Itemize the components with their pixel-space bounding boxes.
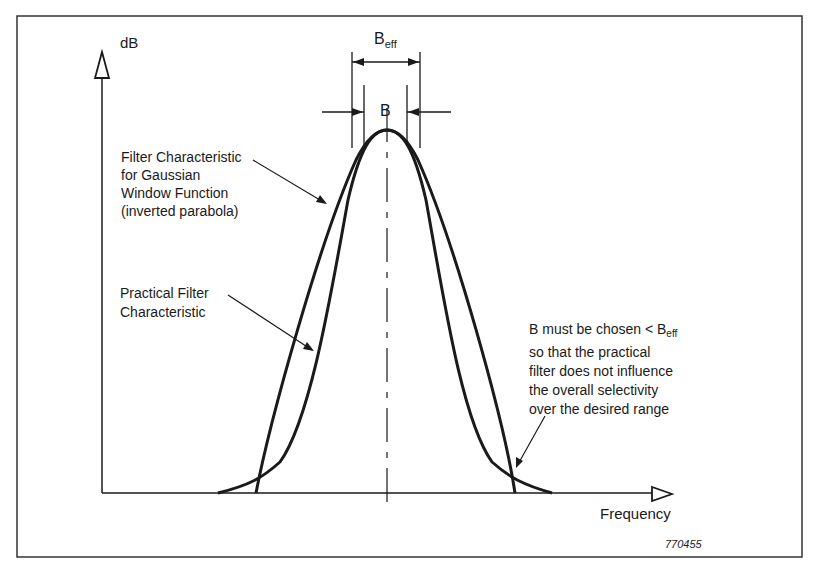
gaussian-leader-arrow-icon — [316, 195, 327, 204]
note-annotation-line: so that the practical — [529, 343, 677, 362]
gaussian-annotation-line: Window Function — [121, 184, 242, 202]
practical-annotation: Practical Filter Characteristic — [120, 284, 209, 322]
beff-label-sub: eff — [385, 38, 397, 50]
practical-annotation-line: Practical Filter — [120, 284, 209, 303]
b-left-arrow-icon — [352, 108, 363, 116]
note-line1-sub: eff — [666, 328, 677, 339]
beff-right-arrow-icon — [408, 58, 419, 66]
note-line1-main: B must be chosen < B — [529, 321, 666, 337]
gaussian-leader-line — [253, 160, 325, 203]
beff-label: Beff — [374, 30, 397, 53]
b-right-arrow-icon — [408, 108, 419, 116]
figure-id: 770455 — [665, 535, 702, 553]
gaussian-annotation-line: Filter Characteristic — [121, 148, 242, 166]
practical-annotation-line: Characteristic — [120, 303, 209, 322]
beff-left-arrow-icon — [353, 58, 364, 66]
note-annotation-line: the overall selectivity — [529, 381, 677, 400]
gaussian-annotation-line: for Gaussian — [121, 166, 242, 184]
note-annotation: B must be chosen < Beff so that the prac… — [529, 320, 677, 419]
y-axis-arrow-icon — [95, 52, 109, 78]
note-annotation-line: filter does not influence — [529, 362, 677, 381]
note-leader-arrow-icon — [516, 457, 523, 468]
gaussian-annotation: Filter Characteristic for Gaussian Windo… — [121, 148, 242, 220]
gaussian-annotation-line: (inverted parabola) — [121, 202, 242, 220]
note-leader-line — [517, 416, 545, 466]
beff-label-main: B — [374, 30, 385, 47]
x-axis-arrow-icon — [652, 487, 672, 501]
x-axis-label: Frequency — [600, 505, 671, 523]
practical-leader-arrow-icon — [303, 342, 314, 351]
b-label: B — [380, 102, 391, 120]
note-annotation-line: B must be chosen < Beff — [529, 320, 677, 343]
y-axis-label: dB — [120, 34, 138, 52]
note-annotation-line: over the desired range — [529, 400, 677, 419]
